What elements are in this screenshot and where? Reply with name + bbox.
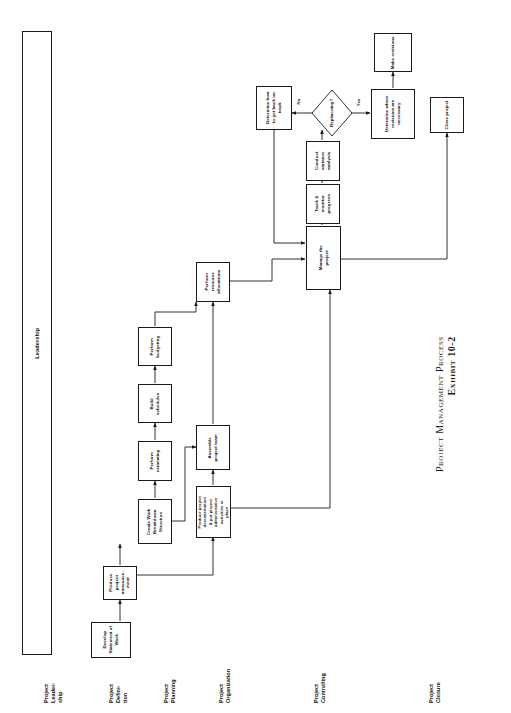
node-label: Develop Statement of Work <box>102 623 119 657</box>
node-create-wbs[interactable]: Create Work Breakdown Structure <box>138 499 172 544</box>
diamond-text-wrap: Replan-ning? <box>311 89 353 137</box>
edge-budgeting-to-resource <box>155 302 196 326</box>
node-label: Manage the project <box>318 242 330 275</box>
edge-wbs-to-team <box>172 447 196 521</box>
diagram-canvas: Leadership Develop Statement of Work Pro… <box>0 0 511 713</box>
node-develop-sow[interactable]: Develop Statement of Work <box>91 622 131 658</box>
leadership-swimlane-box: Leadership <box>22 31 52 655</box>
node-label: Make revisions <box>390 36 396 70</box>
edge-label-yes: Yes <box>355 100 363 105</box>
node-perform-budgeting[interactable]: Perform budgeting <box>138 327 172 366</box>
edge-manage-to-close <box>341 133 447 259</box>
node-label: Perform budgeting <box>149 331 161 363</box>
node-label: Perform resource allocations <box>204 266 221 298</box>
node-label: Determine where revisions are necessary <box>384 93 401 135</box>
node-label: Assemble project team <box>207 432 219 464</box>
row-label-project-controlling: Project Controlling <box>313 703 343 713</box>
node-make-revisions[interactable]: Make revisions <box>374 33 412 72</box>
row-label-project-organization: Project Organization <box>218 703 252 713</box>
node-determine-back-on-track[interactable]: Determine how to get back on track <box>256 86 292 130</box>
node-close-project[interactable]: Close project <box>430 97 464 133</box>
row-label-project-closure: Project Closure <box>428 703 449 713</box>
row-label-project-planning: Project Planning <box>163 703 187 713</box>
node-label: Track & monitor progress <box>314 188 331 220</box>
node-label: Produce project announce-ment <box>108 568 131 598</box>
node-manage-project[interactable]: Manage the project <box>306 226 341 290</box>
node-perform-resource-allocations[interactable]: Perform resource allocations <box>196 262 230 302</box>
node-label: Determine how to get back on track <box>265 91 282 125</box>
caption-title: Project Management Process <box>434 336 445 472</box>
row-label-project-leadership: Project Leader- ship <box>43 703 63 713</box>
node-perform-estimating[interactable]: Perform estimating <box>138 441 172 481</box>
node-build-schedules[interactable]: Build schedules <box>138 384 172 423</box>
node-produce-documentation[interactable]: Produce project documentation & put proj… <box>196 486 231 538</box>
node-label: Close project <box>444 99 450 131</box>
edge-label-no: No <box>296 99 302 104</box>
node-label: Build schedules <box>149 388 161 420</box>
node-label: Conduct variance analysis <box>314 145 331 177</box>
leadership-label: Leadership <box>34 328 41 359</box>
node-replanning-decision[interactable]: Replan-ning? <box>311 89 353 137</box>
node-produce-announcement[interactable]: Produce project announce-ment <box>103 566 137 600</box>
caption-exhibit-number: Exhibit 10-2 <box>446 336 457 472</box>
node-label: Produce project documentation & put proj… <box>197 496 229 529</box>
edge-backontrack-to-manage <box>274 130 305 243</box>
edge-documentation-to-manage <box>231 290 330 508</box>
figure-caption: Project Management Process Exhibit 10-2 <box>420 250 500 480</box>
node-determine-revisions[interactable]: Determine where revisions are necessary <box>371 89 415 139</box>
node-conduct-variance-analysis[interactable]: Conduct variance analysis <box>306 141 340 181</box>
node-assemble-team[interactable]: Assemble project team <box>196 425 230 470</box>
node-track-monitor-progress[interactable]: Track & monitor progress <box>306 184 340 224</box>
node-label: Create Work Breakdown Structure <box>146 506 163 538</box>
edge-resource-to-manage <box>230 259 305 281</box>
node-label: Replan-ning? <box>329 98 335 128</box>
row-label-project-definition: Project Defini- tion <box>108 703 127 713</box>
node-label: Perform estimating <box>149 445 161 477</box>
